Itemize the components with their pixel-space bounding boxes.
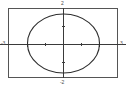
y-axis-min-label: -2 xyxy=(60,80,64,85)
x-axis-max-label: 3 xyxy=(120,41,123,46)
plot-canvas xyxy=(0,0,126,89)
graph-plot-area: 2 -2 -3 3 xyxy=(0,0,126,89)
x-axis-min-label: -3 xyxy=(1,41,5,46)
y-axis-max-label: 2 xyxy=(61,1,64,6)
